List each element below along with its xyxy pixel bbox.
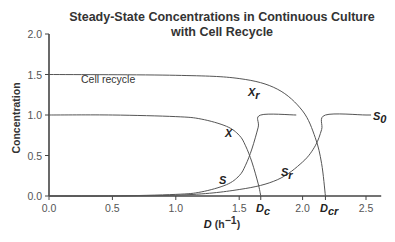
series-label-s0: S0 — [373, 110, 387, 125]
series-label-x: X — [224, 127, 233, 139]
chart: Steady-State Concentrations in Continuou… — [0, 0, 395, 242]
y-tick-label: 2.0 — [27, 28, 42, 40]
y-axis-label: Concentration — [10, 82, 22, 153]
series-s-line — [49, 114, 296, 196]
series-label-xr: Xr — [247, 86, 260, 101]
series-label-s: S — [219, 174, 227, 186]
y-tick-label: 1.0 — [27, 109, 42, 121]
x-tick-label: 1.5 — [232, 202, 247, 214]
x-tick-label: 2.5 — [359, 202, 374, 214]
axes: 0.00.51.01.52.00.00.51.01.52.02.5 — [27, 28, 381, 214]
y-tick-label: 0.0 — [27, 190, 42, 202]
annotation-cell-recycle: Cell recycle — [81, 73, 135, 85]
curves — [49, 75, 371, 197]
x-tick-label: 1.0 — [168, 202, 183, 214]
y-tick-label: 1.5 — [27, 69, 42, 81]
x-tick-label: 0.5 — [105, 202, 120, 214]
chart-title: Steady-State Concentrations in Continuou… — [69, 10, 375, 24]
series-sr-line — [49, 114, 366, 196]
x-tick-label: 2.0 — [295, 202, 310, 214]
chart-subtitle: with Cell Recycle — [170, 25, 273, 39]
x-axis-label: D (h−1) — [204, 214, 240, 230]
series-label-sr: Sr — [281, 166, 293, 181]
tick-label-dcr: Dcr — [320, 202, 339, 217]
tick-label-dc: Dc — [256, 202, 270, 217]
x-tick-label: 0.0 — [42, 202, 57, 214]
y-tick-label: 0.5 — [27, 150, 42, 162]
